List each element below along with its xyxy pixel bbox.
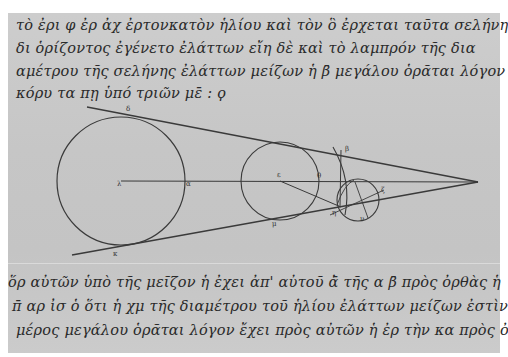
label-epsilon: ε <box>277 171 281 179</box>
axis-line <box>121 181 478 182</box>
label-alpha: α <box>186 180 191 188</box>
label-kappa: κ <box>113 250 118 258</box>
label-eta: η <box>332 209 336 217</box>
upper-tangent-line <box>87 107 478 182</box>
vertical-chord <box>340 150 341 207</box>
label-delta: δ <box>126 105 130 113</box>
label-theta: θ <box>317 172 321 180</box>
radius-line <box>355 182 368 218</box>
label-beta: β <box>345 145 349 153</box>
geometric-diagram: λ α δ κ ε θ β μ ζ ν η <box>0 0 508 357</box>
diagonal-line <box>280 181 341 207</box>
small-circle <box>337 179 379 221</box>
label-center-large: λ <box>117 180 122 188</box>
label-mu: μ <box>272 220 277 228</box>
label-zeta: ζ <box>381 186 385 194</box>
label-nu: ν <box>360 215 364 223</box>
